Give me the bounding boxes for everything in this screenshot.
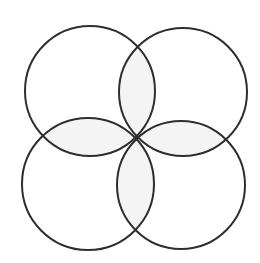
four-circle-diagram bbox=[0, 0, 260, 263]
